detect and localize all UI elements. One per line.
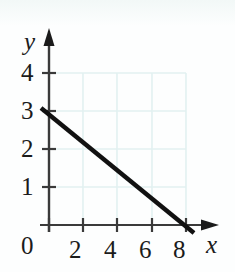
- y-axis: [44, 28, 55, 232]
- x-tick-label-4: 4: [104, 237, 117, 262]
- y-axis-label: y: [24, 29, 35, 54]
- arrow-up-icon: [44, 28, 55, 46]
- x-axis-label: x: [206, 232, 217, 257]
- x-tick-label-6: 6: [139, 237, 152, 262]
- x-tick-label-8: 8: [173, 237, 186, 262]
- x-tick-label-2: 2: [69, 237, 82, 262]
- y-tick-label-4: 4: [21, 60, 34, 85]
- y-tick-label-3: 3: [21, 98, 34, 123]
- y-tick-label-1: 1: [21, 174, 34, 199]
- x-tick-label-0: 0: [21, 233, 34, 258]
- arrow-right-icon: [201, 220, 219, 231]
- line-graph-figure: 4 3 2 1 0 2 4 6 8 y x: [0, 0, 235, 272]
- y-tick-label-2: 2: [21, 136, 34, 161]
- graph-canvas: [0, 0, 235, 272]
